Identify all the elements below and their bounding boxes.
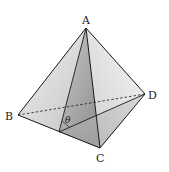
- vertex-label-c: C: [96, 152, 104, 165]
- vertex-label-d: D: [148, 89, 157, 102]
- tetrahedron-diagram: A B C D θ: [0, 0, 169, 172]
- vertex-label-a: A: [81, 14, 91, 27]
- vertex-label-b: B: [5, 110, 13, 123]
- angle-theta-label: θ: [65, 115, 71, 125]
